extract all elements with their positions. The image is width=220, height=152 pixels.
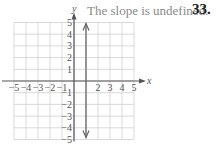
x-axis-label: x [146, 75, 152, 86]
x-tick-label: 3 [108, 82, 113, 93]
y-tick-label: −5 [61, 134, 72, 145]
y-tick-label: −2 [61, 99, 72, 110]
x-tick-label: −2 [45, 82, 56, 93]
y-tick-label: 3 [67, 40, 72, 51]
axes: xy [2, 3, 152, 142]
x-tick-label: 2 [96, 82, 101, 93]
y-tick-label: −1 [61, 87, 72, 98]
y-tick-label: −4 [61, 122, 72, 133]
y-tick-label: 4 [67, 29, 72, 40]
x-tick-label: 4 [120, 82, 125, 93]
y-axis-arrow-icon [72, 13, 77, 20]
x-tick-label: 5 [132, 82, 137, 93]
x-tick-label: −5 [9, 82, 20, 93]
y-tick-label: 2 [67, 52, 72, 63]
coordinate-plane: xy −5−4−3−2−1234554321−1−2−3−4−5 [0, 0, 220, 152]
y-axis-label: y [71, 3, 77, 14]
x-axis-arrow-icon [139, 79, 146, 84]
y-tick-label: −3 [61, 111, 72, 122]
y-tick-label: 1 [67, 64, 72, 75]
y-tick-label: 5 [67, 17, 72, 28]
x-tick-label: −3 [33, 82, 44, 93]
x-tick-label: −4 [21, 82, 32, 93]
